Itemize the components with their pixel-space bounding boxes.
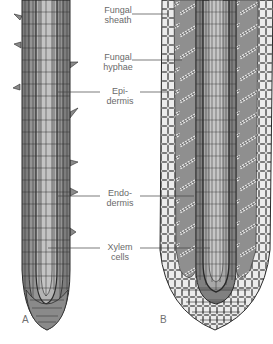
label-fungal-sheath: Fungal sheath [96, 5, 140, 25]
label-epidermis: Epi- dermis [98, 86, 142, 106]
panel-letter-a: A [22, 314, 29, 325]
panel-letter-b: B [160, 314, 167, 325]
root-a [13, 0, 78, 330]
label-endodermis: Endo- dermis [98, 188, 142, 208]
label-fungal-hyphae: Fungal hyphae [96, 52, 140, 72]
root-b [160, 0, 273, 330]
label-xylem-cells: Xylem cells [98, 242, 142, 262]
